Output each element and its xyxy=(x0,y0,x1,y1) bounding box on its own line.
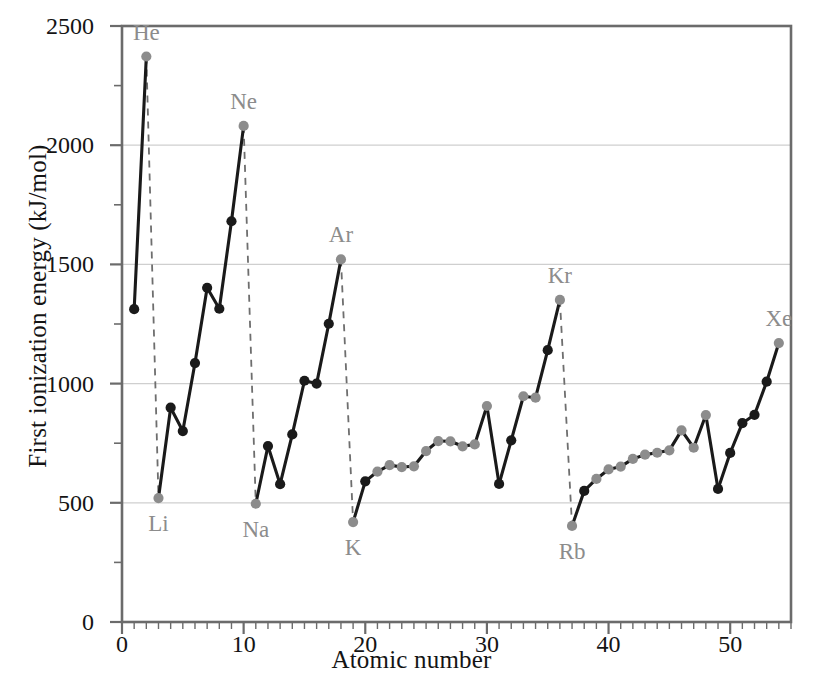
data-point-marker xyxy=(324,319,334,329)
data-point-marker xyxy=(190,358,200,368)
data-point-marker xyxy=(421,446,431,456)
data-point-marker xyxy=(360,476,370,486)
plot-area xyxy=(0,0,823,695)
data-point-marker xyxy=(275,479,285,489)
data-line-segment xyxy=(572,491,584,526)
data-line-segment xyxy=(511,396,523,440)
data-point-marker xyxy=(202,283,212,293)
data-point-marker xyxy=(689,443,699,453)
data-line-segment xyxy=(694,415,706,448)
data-point-marker xyxy=(166,403,176,413)
data-point-marker xyxy=(725,448,735,458)
data-line-segment xyxy=(183,363,195,431)
data-point-marker xyxy=(737,418,747,428)
data-point-marker xyxy=(385,460,395,470)
data-point-marker xyxy=(762,377,772,387)
element-label-rb: Rb xyxy=(559,540,586,563)
data-line-segment xyxy=(280,434,292,484)
data-point-marker xyxy=(214,304,224,314)
data-point-marker xyxy=(239,121,249,131)
data-line-segment xyxy=(195,288,207,363)
data-line-segment xyxy=(158,408,170,498)
data-point-marker xyxy=(676,425,686,435)
element-label-k: K xyxy=(345,536,362,559)
data-point-marker xyxy=(397,462,407,472)
data-point-marker xyxy=(543,345,553,355)
data-point-marker xyxy=(457,441,467,451)
data-point-marker xyxy=(482,401,492,411)
data-point-marker xyxy=(129,304,139,314)
dashed-drop-segment xyxy=(146,57,158,499)
data-line-segment xyxy=(353,481,365,522)
data-line-segment xyxy=(317,324,329,384)
data-point-marker xyxy=(263,441,273,451)
element-label-xe: Xe xyxy=(765,307,792,330)
ionization-energy-chart: First ionization energy (kJ/mol) Atomic … xyxy=(0,0,823,695)
data-point-marker xyxy=(470,439,480,449)
data-point-marker xyxy=(287,429,297,439)
data-point-marker xyxy=(251,499,261,509)
data-point-marker xyxy=(336,254,346,264)
data-line-segment xyxy=(292,381,304,435)
data-point-marker xyxy=(433,436,443,446)
data-point-marker xyxy=(591,474,601,484)
element-label-kr: Kr xyxy=(548,264,572,287)
data-line-segment xyxy=(487,406,499,484)
dashed-drop-segment xyxy=(341,259,353,522)
data-line-segment xyxy=(475,406,487,444)
data-point-marker xyxy=(774,338,784,348)
data-line-segment xyxy=(499,440,511,484)
data-point-marker xyxy=(141,51,151,61)
data-point-marker xyxy=(312,379,322,389)
data-point-marker xyxy=(445,436,455,446)
data-line-segment xyxy=(329,259,341,323)
data-point-marker xyxy=(579,486,589,496)
data-point-marker xyxy=(652,448,662,458)
data-point-marker xyxy=(603,464,613,474)
data-point-marker xyxy=(372,466,382,476)
element-label-ar: Ar xyxy=(329,223,353,246)
data-point-marker xyxy=(518,391,528,401)
data-point-marker xyxy=(749,410,759,420)
data-line-segment xyxy=(268,446,280,484)
element-label-ne: Ne xyxy=(230,90,257,113)
data-point-marker xyxy=(616,461,626,471)
data-point-marker xyxy=(299,376,309,386)
data-point-marker xyxy=(348,517,358,527)
data-point-marker xyxy=(640,450,650,460)
data-line-segment xyxy=(718,453,730,489)
dashed-drop-segment xyxy=(560,300,572,526)
data-line-segment xyxy=(256,446,268,504)
data-point-marker xyxy=(555,295,565,305)
data-line-segment xyxy=(767,343,779,382)
data-point-marker xyxy=(409,461,419,471)
element-label-he: He xyxy=(133,21,160,44)
data-line-segment xyxy=(755,382,767,415)
data-point-marker xyxy=(494,479,504,489)
data-line-segment xyxy=(548,300,560,350)
dashed-drop-segment xyxy=(244,126,256,504)
data-line-segment xyxy=(231,126,243,221)
data-point-marker xyxy=(713,484,723,494)
data-point-marker xyxy=(506,435,516,445)
data-point-marker xyxy=(530,393,540,403)
data-line-segment xyxy=(536,350,548,397)
data-line-segment xyxy=(706,415,718,489)
plot-frame xyxy=(122,26,791,622)
data-point-marker xyxy=(178,426,188,436)
data-line-segment xyxy=(134,57,146,310)
data-point-marker xyxy=(153,493,163,503)
data-point-marker xyxy=(701,410,711,420)
data-point-marker xyxy=(567,521,577,531)
element-label-na: Na xyxy=(242,518,269,541)
element-label-li: Li xyxy=(148,512,168,535)
data-point-marker xyxy=(664,445,674,455)
data-point-marker xyxy=(226,216,236,226)
data-point-marker xyxy=(628,454,638,464)
